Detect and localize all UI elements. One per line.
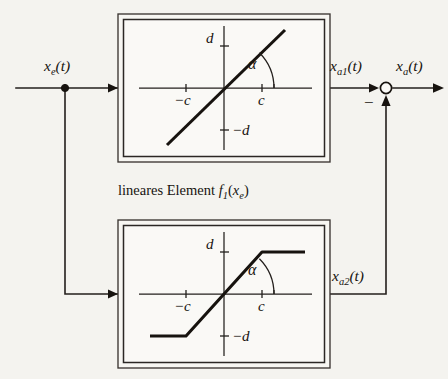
block-diagram-canvas: xe(t) xa1(t) xa(t) xa2(t) − lineares Ele… xyxy=(0,0,448,379)
saturation-element-block xyxy=(118,220,330,368)
branch-wire-lower xyxy=(65,88,118,294)
linear-label-neg-d: −d xyxy=(232,123,250,138)
upper-output-arrowhead xyxy=(369,84,379,93)
output-signal-label: xa(t) xyxy=(396,58,423,74)
saturation-label-c: c xyxy=(258,299,265,314)
saturation-label-alpha: α xyxy=(248,262,256,278)
linear-label-d: d xyxy=(206,31,214,46)
lower-output-arrowhead xyxy=(381,95,390,106)
branch-node-dot xyxy=(61,84,68,91)
input-signal-label: xe(t) xyxy=(44,58,70,74)
lower-output-wire xyxy=(330,100,386,294)
linear-label-alpha: α xyxy=(248,56,256,72)
lower-output-signal-label: xa2(t) xyxy=(332,268,364,284)
linear-label-neg-c: −c xyxy=(174,93,191,108)
linear-element-block xyxy=(118,14,330,162)
upper-output-signal-label: xa1(t) xyxy=(330,58,362,74)
saturation-label-neg-d: −d xyxy=(232,329,250,344)
saturation-label-neg-c: −c xyxy=(174,299,191,314)
summing-junction-circle xyxy=(380,82,391,93)
summing-junction-sign: − xyxy=(364,93,374,113)
block-caption: lineares Element f1(xe) xyxy=(118,182,249,199)
output-arrowhead xyxy=(433,83,444,92)
lower-input-arrowhead xyxy=(108,290,118,299)
linear-label-c: c xyxy=(258,93,265,108)
input-arrowhead xyxy=(108,84,118,93)
saturation-label-d: d xyxy=(206,237,214,252)
